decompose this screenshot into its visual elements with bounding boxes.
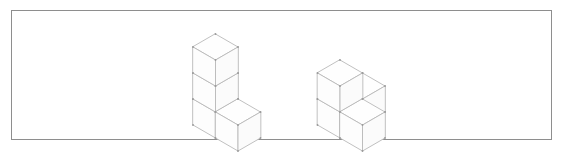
cube-vertex-R2-6 — [384, 137, 386, 139]
cube-vertex-R2-5 — [339, 137, 341, 139]
cube-vertex-R2-0 — [362, 98, 364, 100]
cube-vertex-R2-3 — [339, 111, 341, 113]
cube-vertex-R4-5 — [317, 98, 319, 100]
cube-vertex-R2-2 — [362, 124, 364, 126]
cube-vertex-R4-2 — [339, 85, 341, 87]
cube-vertex-R4-1 — [362, 72, 364, 74]
figures-layer — [0, 0, 564, 155]
right-structure — [0, 0, 564, 155]
cube-vertex-R2-4 — [362, 150, 364, 152]
cube-vertex-R4-0 — [339, 59, 341, 61]
cube-vertex-R1-5 — [317, 124, 319, 126]
screenshot-root — [0, 0, 564, 155]
cube-vertex-R4-3 — [317, 72, 319, 74]
cube-vertex-R3-1 — [384, 85, 386, 87]
cube-vertex-R2-1 — [384, 111, 386, 113]
